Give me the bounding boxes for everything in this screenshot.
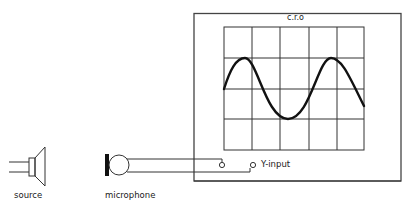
cro-diagram <box>0 0 420 211</box>
ground-terminal <box>219 162 224 167</box>
cro-outer-box <box>194 14 401 182</box>
source-label: source <box>14 190 42 200</box>
cro-screen-grid <box>224 27 364 150</box>
cro-title: c.r.o <box>287 13 304 22</box>
source-speaker-icon <box>9 147 45 186</box>
y-input-label: Y-input <box>261 159 290 169</box>
microphone-icon <box>105 154 129 176</box>
y-input-terminal <box>250 162 255 167</box>
microphone-label: microphone <box>105 190 155 200</box>
